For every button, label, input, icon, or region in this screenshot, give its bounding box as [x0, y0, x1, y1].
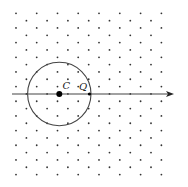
- lattice-dot: [161, 27, 163, 29]
- lattice-dot: [88, 122, 90, 124]
- lattice-dot: [36, 159, 38, 161]
- lattice-dot: [129, 108, 131, 110]
- lattice-dot: [57, 71, 59, 73]
- lattice-diagram: CQ: [0, 0, 188, 187]
- point-q: [88, 92, 91, 95]
- lattice-dot: [67, 34, 69, 36]
- lattice-dot: [150, 34, 152, 36]
- lattice-dot: [15, 100, 17, 102]
- lattice-dot: [15, 56, 17, 58]
- lattice-dot: [46, 34, 48, 36]
- lattice-dot: [161, 42, 163, 44]
- lattice-dot: [129, 122, 131, 124]
- lattice-dot: [77, 56, 79, 58]
- lattice-dot: [88, 137, 90, 139]
- lattice-dot: [119, 42, 121, 44]
- lattice-dot: [26, 78, 28, 80]
- lattice-dot: [26, 152, 28, 154]
- lattice-dot: [161, 159, 163, 161]
- lattice-dot: [98, 144, 100, 146]
- lattice-dot: [98, 86, 100, 88]
- lattice-dot: [98, 130, 100, 132]
- lattice-dot: [98, 27, 100, 29]
- lattice-dot: [46, 78, 48, 80]
- lattice-dot: [150, 166, 152, 168]
- lattice-dot: [161, 144, 163, 146]
- lattice-dot: [36, 56, 38, 58]
- lattice-dot: [140, 115, 142, 117]
- lattice-dot: [36, 100, 38, 102]
- lattice-dot: [109, 78, 111, 80]
- lattice-dot: [109, 137, 111, 139]
- lattice-dot: [109, 152, 111, 154]
- lattice-dot: [26, 34, 28, 36]
- lattice-dot: [150, 49, 152, 51]
- lattice-dot: [26, 20, 28, 22]
- lattice-dot: [36, 174, 38, 176]
- lattice-dot: [140, 100, 142, 102]
- lattice-dot: [161, 130, 163, 132]
- lattice-dot: [57, 115, 59, 117]
- lattice-dot: [150, 152, 152, 154]
- lattice-dot: [119, 144, 121, 146]
- lattice-dot: [119, 159, 121, 161]
- lattice-dot: [15, 27, 17, 29]
- lattice-dot: [88, 64, 90, 66]
- lattice-dot: [98, 12, 100, 14]
- lattice-dot: [98, 42, 100, 44]
- lattice-dot: [77, 71, 79, 73]
- lattice-dot: [77, 42, 79, 44]
- lattice-dot: [26, 122, 28, 124]
- lattice-dot: [57, 42, 59, 44]
- lattice-dot: [88, 152, 90, 154]
- lattice-dot: [77, 174, 79, 176]
- lattice-dot: [119, 115, 121, 117]
- lattice-dot: [88, 34, 90, 36]
- lattice-dot: [161, 71, 163, 73]
- lattice-dot: [98, 174, 100, 176]
- lattice-dot: [109, 64, 111, 66]
- lattice-dot: [36, 42, 38, 44]
- lattice-dot: [15, 159, 17, 161]
- lattice-dot: [67, 137, 69, 139]
- lattice-dot: [109, 108, 111, 110]
- lattice-dot: [36, 144, 38, 146]
- lattice-dot: [161, 115, 163, 117]
- lattice-dot: [119, 12, 121, 14]
- lattice-dot: [57, 174, 59, 176]
- lattice-dot: [98, 56, 100, 58]
- lattice-dot: [26, 49, 28, 51]
- lattice-dot: [46, 49, 48, 51]
- lattice-dot: [15, 130, 17, 132]
- lattice-dot: [36, 12, 38, 14]
- point-label-q: Q: [79, 81, 87, 92]
- lattice-dot: [77, 27, 79, 29]
- lattice-dot: [26, 64, 28, 66]
- lattice-dot: [150, 108, 152, 110]
- lattice-dot: [15, 86, 17, 88]
- lattice-dot: [119, 71, 121, 73]
- lattice-dot: [57, 86, 59, 88]
- lattice-dot: [57, 144, 59, 146]
- lattice-dot: [119, 56, 121, 58]
- lattice-dot: [46, 20, 48, 22]
- lattice-dot: [140, 56, 142, 58]
- lattice-dot: [15, 144, 17, 146]
- lattice-dot: [77, 159, 79, 161]
- lattice-dot: [26, 108, 28, 110]
- lattice-dot: [109, 49, 111, 51]
- lattice-dot: [57, 130, 59, 132]
- lattice-dot: [36, 130, 38, 132]
- lattice-dot: [77, 100, 79, 102]
- lattice-dot: [140, 71, 142, 73]
- lattice-dot: [140, 86, 142, 88]
- lattice-dot: [67, 152, 69, 154]
- lattice-dot: [150, 137, 152, 139]
- lattice-dot: [26, 166, 28, 168]
- lattice-dot: [140, 27, 142, 29]
- lattice-dot: [150, 78, 152, 80]
- lattice-dot: [109, 166, 111, 168]
- lattice-dot: [57, 12, 59, 14]
- lattice-dot: [161, 174, 163, 176]
- lattice-dot: [15, 71, 17, 73]
